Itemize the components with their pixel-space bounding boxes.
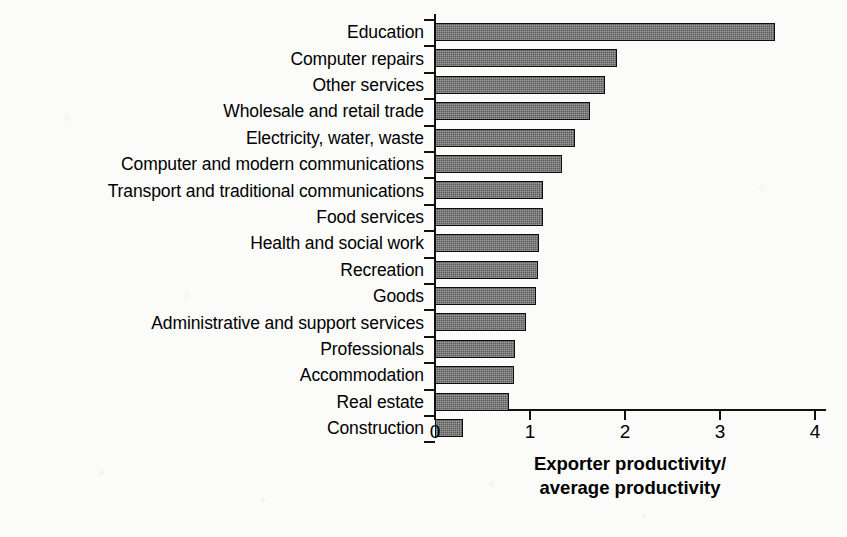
bar xyxy=(435,23,775,41)
y-axis-tick xyxy=(424,45,435,47)
category-label: Administrative and support services xyxy=(0,314,424,332)
bar xyxy=(435,313,526,331)
category-label: Electricity, water, waste xyxy=(0,129,424,147)
y-axis-tick xyxy=(424,230,435,232)
y-axis-tick xyxy=(424,204,435,206)
category-label: Computer repairs xyxy=(0,50,424,68)
y-axis-tick xyxy=(424,336,435,338)
category-label: Other services xyxy=(0,76,424,94)
category-label: Education xyxy=(0,23,424,41)
x-axis-title: Exporter productivity/ average productiv… xyxy=(434,452,826,500)
bar xyxy=(435,261,538,279)
y-axis-tick xyxy=(424,151,435,153)
x-axis-tick-label: 1 xyxy=(510,421,550,443)
y-axis-tick xyxy=(424,177,435,179)
x-axis-tick xyxy=(624,411,626,420)
category-label: Construction xyxy=(0,419,424,437)
x-axis-tick xyxy=(719,411,721,420)
category-label: Professionals xyxy=(0,340,424,358)
bar xyxy=(435,49,617,67)
bar xyxy=(435,181,543,199)
x-axis-tick-label: 2 xyxy=(605,421,645,443)
x-axis-tick xyxy=(434,411,436,420)
y-axis-tick xyxy=(424,98,435,100)
category-label: Real estate xyxy=(0,393,424,411)
x-axis-tick xyxy=(529,411,531,420)
y-axis-tick xyxy=(424,72,435,74)
y-axis-tick xyxy=(424,257,435,259)
bar xyxy=(435,287,536,305)
y-axis-tick xyxy=(424,283,435,285)
category-label: Computer and modern communications xyxy=(0,155,424,173)
x-axis-tick-label: 0 xyxy=(415,421,455,443)
y-axis-tick xyxy=(424,309,435,311)
bar xyxy=(435,234,539,252)
bar xyxy=(435,208,543,226)
bar xyxy=(435,155,562,173)
category-label: Transport and traditional communications xyxy=(0,182,424,200)
category-label: Accommodation xyxy=(0,366,424,384)
bar xyxy=(435,340,515,358)
x-axis-tick-label: 4 xyxy=(795,421,835,443)
bar xyxy=(435,102,590,120)
bar-chart: EducationComputer repairsOther servicesW… xyxy=(0,0,847,537)
category-label: Goods xyxy=(0,287,424,305)
chart-page: EducationComputer repairsOther servicesW… xyxy=(0,0,847,537)
bar xyxy=(435,76,605,94)
x-axis-title-line-1: Exporter productivity/ xyxy=(434,452,826,476)
bar xyxy=(435,366,514,384)
bar xyxy=(435,393,509,411)
x-axis-tick xyxy=(814,411,816,420)
y-axis-tick xyxy=(424,389,435,391)
x-axis-title-line-2: average productivity xyxy=(434,476,826,500)
x-axis-tick-label: 3 xyxy=(700,421,740,443)
y-axis-tick xyxy=(424,125,435,127)
y-axis-tick xyxy=(424,362,435,364)
category-label: Wholesale and retail trade xyxy=(0,102,424,120)
bar xyxy=(435,129,575,147)
category-label: Recreation xyxy=(0,261,424,279)
category-label: Health and social work xyxy=(0,234,424,252)
y-axis-tick xyxy=(424,19,435,21)
category-label: Food services xyxy=(0,208,424,226)
